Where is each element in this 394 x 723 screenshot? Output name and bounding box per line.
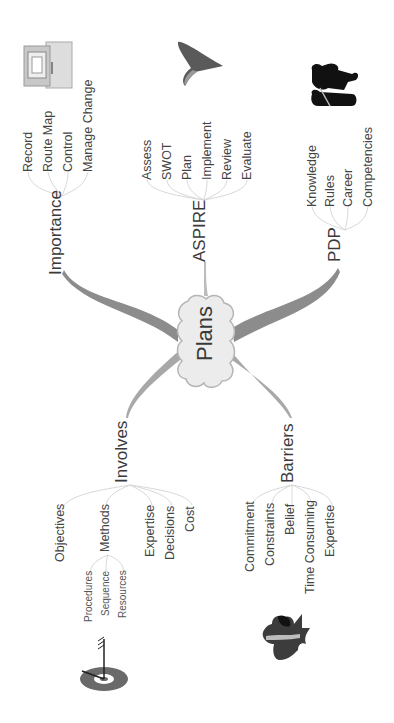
leaf-constraints[interactable]: Constraints <box>264 503 277 566</box>
leaf-belief[interactable]: Belief <box>284 504 297 535</box>
target-icon <box>78 635 132 695</box>
leaf-sequence[interactable]: Sequence <box>101 571 111 616</box>
branch-barriers-link <box>230 350 292 418</box>
leaf-record[interactable]: Record <box>22 132 35 172</box>
branch-involves-link <box>126 348 182 418</box>
branch-aspire[interactable]: ASPIRE <box>191 200 208 262</box>
branch-pdp[interactable]: PDP <box>326 227 343 262</box>
leaf-expertise-involves[interactable]: Expertise <box>144 505 157 557</box>
leaf-career[interactable]: Career <box>342 169 355 207</box>
branch-aspire-link <box>204 262 208 296</box>
leaf-manage-change[interactable]: Manage Change <box>82 80 95 172</box>
leaf-cost[interactable]: Cost <box>184 506 197 532</box>
leaf-decisions[interactable]: Decisions <box>164 506 177 560</box>
leaf-knowledge[interactable]: Knowledge <box>306 145 319 207</box>
leaf-route-map[interactable]: Route Map <box>42 111 55 172</box>
leaf-time-consuming[interactable]: Time Consuming <box>304 500 317 594</box>
hurdle-icon <box>258 610 312 666</box>
leaf-assess[interactable]: Assess <box>141 140 154 180</box>
leaf-evaluate[interactable]: Evaluate <box>241 131 254 180</box>
leaf-commitment[interactable]: Commitment <box>244 501 257 572</box>
branch-barriers[interactable]: Barriers <box>279 423 296 483</box>
central-topic-label: Plans <box>194 306 216 361</box>
leaf-competencies[interactable]: Competencies <box>362 127 375 207</box>
leaf-objectives[interactable]: Objectives <box>54 504 67 562</box>
leaf-implement[interactable]: Implement <box>201 122 214 180</box>
leaf-rules[interactable]: Rules <box>324 175 337 207</box>
branch-pdp-link <box>232 268 340 342</box>
computer-icon <box>22 40 74 90</box>
leaf-swot[interactable]: SWOT <box>161 143 174 181</box>
branch-importance[interactable]: Importance <box>47 190 64 275</box>
leaf-methods[interactable]: Methods <box>99 504 112 552</box>
people-icon <box>308 60 360 112</box>
leaf-resources[interactable]: Resources <box>118 570 128 618</box>
branch-importance-link <box>62 270 178 342</box>
leaf-plan[interactable]: Plan <box>181 155 194 180</box>
leaf-review[interactable]: Review <box>221 139 234 180</box>
arrow-icon <box>175 38 225 88</box>
branch-involves[interactable]: Involves <box>113 421 130 483</box>
leaf-control[interactable]: Control <box>62 132 75 172</box>
leaf-expertise-barriers[interactable]: Expertise <box>324 505 337 557</box>
central-topic-node[interactable]: Plans <box>176 293 236 389</box>
leaf-procedures[interactable]: Procedures <box>84 571 94 622</box>
